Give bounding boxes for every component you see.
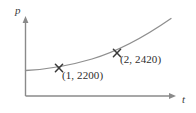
data-point-label-1: (1, 2200) — [62, 70, 103, 81]
x-axis-arrowhead — [169, 93, 176, 99]
x-axis-label: t — [182, 94, 185, 105]
plot-canvas — [0, 0, 196, 113]
exponential-growth-figure: p t (1, 2200) (2, 2420) — [0, 0, 196, 113]
y-axis-label: p — [15, 5, 21, 16]
data-point-label-2: (2, 2420) — [120, 54, 161, 65]
y-axis-arrowhead — [23, 16, 29, 23]
